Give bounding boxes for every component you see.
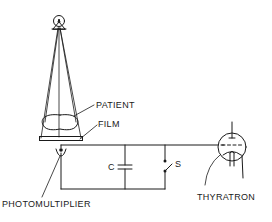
switch-label: S xyxy=(175,160,181,169)
film-label: FILM xyxy=(98,120,120,129)
schematic-drawing xyxy=(0,0,272,222)
xray-beam xyxy=(41,28,81,138)
patient-icon xyxy=(42,115,78,130)
xray-source-icon xyxy=(52,16,66,30)
switch-icon xyxy=(164,145,173,189)
thyratron-leader-line xyxy=(205,155,220,185)
thyratron-label: THYRATRON xyxy=(197,193,255,202)
photomultiplier-leader-line xyxy=(42,156,60,197)
patient-label: PATIENT xyxy=(96,101,135,110)
diagram-canvas: PATIENT FILM C S PHOTOMULTIPLIER THYRATR… xyxy=(0,0,272,222)
photomultiplier-label: PHOTOMULTIPLIER xyxy=(2,200,91,209)
capacitor-label: C xyxy=(108,163,115,172)
patient-leader-line xyxy=(74,105,94,116)
thyratron-icon xyxy=(218,122,246,178)
capacitor-icon xyxy=(118,145,132,189)
circuit-wires xyxy=(61,145,218,189)
film-icon xyxy=(40,137,83,141)
film-leader-line xyxy=(80,125,97,139)
